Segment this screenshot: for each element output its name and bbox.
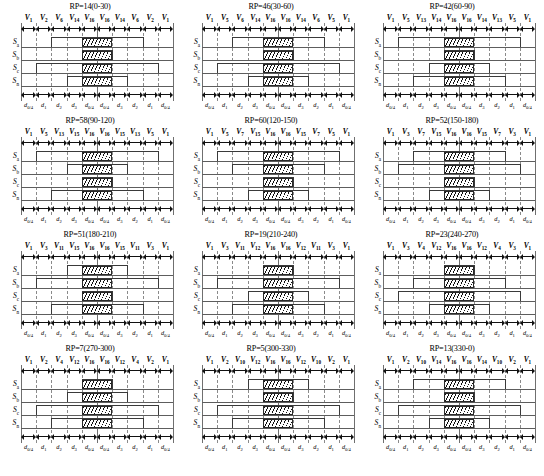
signal-label-sa: Sa [364, 151, 381, 162]
panel-rp-60: RP=60(120-150)V1V5V7V15V16V16V15V7V5V1Sa… [182, 116, 360, 229]
vector-label-row: V1V2V6V14V16V16V14V6V2V1 [21, 13, 173, 24]
signal-label-sa: Sa [2, 379, 19, 390]
signal-label-sc: Sc [183, 177, 200, 188]
segment-arrow [398, 205, 413, 212]
signal-edge [158, 63, 159, 73]
segment-arrow [36, 139, 51, 146]
signal-label-sb: Sb [364, 164, 381, 175]
segment-arrow [143, 319, 158, 326]
signal-edge [232, 164, 233, 174]
signal-edge [474, 177, 475, 187]
signal-label-sa: Sa [364, 37, 381, 48]
segment-divider [354, 23, 355, 101]
signal-label-sc: Sc [183, 63, 200, 74]
segment-arrow [112, 319, 127, 326]
segment-arrow [308, 205, 323, 212]
signal-edge [293, 392, 294, 402]
signal-edge [505, 151, 506, 161]
signal-label-sc: Sc [183, 405, 200, 416]
segment-arrow [398, 433, 413, 440]
segment-arrow [248, 25, 263, 32]
signal-hatch-region [82, 292, 112, 301]
signal-hatch-region [263, 51, 293, 60]
panel-rp-19: RP=19(210-240)V1V3V11V12V16V16V12V11V3V1… [182, 230, 360, 343]
signal-edge [339, 151, 340, 161]
segment-arrow [459, 25, 474, 32]
segment-arrow [278, 205, 293, 212]
segment-arrow [293, 205, 308, 212]
signal-hatch-region [263, 64, 293, 73]
signal-baseline [383, 275, 535, 276]
signal-label-sn: Sn [183, 418, 200, 429]
segment-arrow [82, 91, 97, 98]
segment-arrow [474, 139, 489, 146]
signal-label-sa: Sa [183, 379, 200, 390]
segment-arrow [97, 433, 112, 440]
segment-divider [173, 365, 174, 443]
segment-arrow [429, 433, 444, 440]
segment-divider [173, 137, 174, 215]
signal-baseline [383, 174, 535, 175]
arrow-band-bottom [383, 91, 535, 98]
signal-edge [112, 379, 113, 389]
segment-arrow [248, 205, 263, 212]
panel-rp-7: RP=7(270-300)V1V2V4V12V16V16V12V4V2V1SaS… [1, 344, 179, 457]
arrow-band-bottom [202, 433, 354, 440]
signal-edge [51, 190, 52, 200]
signal-hatch-region [263, 305, 293, 314]
signal-hatch-region [82, 380, 112, 389]
segment-arrow [444, 433, 459, 440]
signal-label-sn: Sn [183, 190, 200, 201]
signal-baseline [21, 86, 173, 87]
signal-hatch-region [444, 64, 474, 73]
segment-arrow [67, 205, 82, 212]
segment-arrow [232, 253, 247, 260]
signal-label-sn: Sn [2, 76, 19, 87]
signal-baseline [383, 402, 535, 403]
duty-label-row: d0/4d1d2d3d0/4d0/4d3d2d1d0/4 [202, 442, 354, 453]
signal-baseline [202, 200, 354, 201]
segment-arrow [127, 91, 142, 98]
segment-arrow [474, 205, 489, 212]
segment-arrow [82, 319, 97, 326]
segment-arrow [444, 253, 459, 260]
vector-label: V1 [335, 355, 358, 367]
signal-edge [51, 304, 52, 314]
signal-edge [293, 265, 294, 275]
panel-title: RP=52(150-180) [363, 116, 541, 125]
panel-plot: V1V5V13V14V16V16V14V13V5V1SaSbScSnd0/4d1… [383, 13, 535, 113]
panel-plot: V1V3V4V12V16V16V12V4V3V1SaSbScSnd0/4d1d2… [383, 241, 535, 341]
signal-edge [127, 164, 128, 174]
segment-arrow [398, 253, 413, 260]
segment-arrow [143, 139, 158, 146]
segment-arrow [158, 319, 173, 326]
segment-arrow [308, 433, 323, 440]
panel-title: RP=14(0-30) [1, 2, 179, 11]
signal-hatch-region [82, 419, 112, 428]
duty-label-row: d0/4d1d2d3d0/4d0/4d3d2d1d0/4 [383, 442, 535, 453]
signal-edge [520, 405, 521, 415]
segment-arrow [505, 253, 520, 260]
signal-edge [489, 190, 490, 200]
duty-label-row: d0/4d1d2d3d0/4d0/4d3d2d1d0/4 [383, 100, 535, 111]
signal-edge [51, 37, 52, 47]
signal-hatch-region [82, 406, 112, 415]
segment-arrow [293, 25, 308, 32]
segment-divider [173, 23, 174, 101]
panel-rp-23: RP=23(240-270)V1V3V4V12V16V16V12V4V3V1Sa… [363, 230, 541, 343]
duty-label: d0/4 [334, 214, 359, 226]
panel-plot: V1V3V7V15V16V16V15V7V3V1SaSbScSnd0/4d1d2… [383, 127, 535, 227]
signal-sa: Sa [383, 150, 535, 163]
signal-hatch-region [82, 178, 112, 187]
segment-arrow [324, 139, 339, 146]
segment-arrow [339, 253, 354, 260]
signal-edge [308, 76, 309, 86]
arrow-band-top [21, 25, 173, 32]
vector-label: V1 [154, 127, 177, 139]
segment-arrow [383, 205, 398, 212]
signal-label-sa: Sa [183, 265, 200, 276]
signal-label-sn: Sn [2, 418, 19, 429]
arrow-band-top [383, 139, 535, 146]
segment-arrow [202, 253, 217, 260]
segment-divider [354, 137, 355, 215]
